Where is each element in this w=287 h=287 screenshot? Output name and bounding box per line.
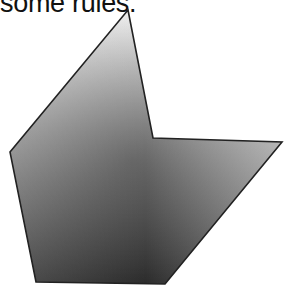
- shape-diagram: [0, 0, 287, 287]
